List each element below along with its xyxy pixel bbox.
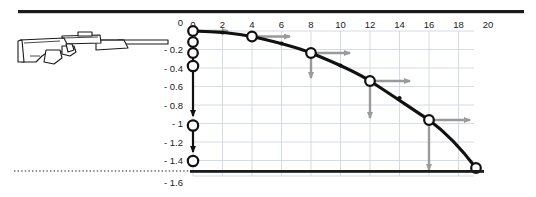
bolt-action-rifle-illustration	[18, 32, 168, 64]
filled-marker-x14	[397, 96, 401, 100]
open-marker-x8	[306, 48, 316, 58]
y-tick-m02: - 0.2	[164, 44, 183, 55]
x-tick-4: 4	[249, 19, 254, 30]
y-tick-m14: - 1.4	[164, 155, 183, 166]
drop-marker-0	[188, 26, 198, 36]
y-tick-m12: - 1.2	[164, 137, 183, 148]
drop-marker-m006	[188, 37, 198, 47]
trajectory-curve	[193, 31, 476, 168]
horizontal-reference-arrows	[193, 31, 470, 120]
y-tick-m06: - 0.6	[164, 81, 183, 92]
x-tick-12: 12	[365, 19, 376, 30]
x-tick-8: 8	[308, 19, 313, 30]
drop-marker-m024	[188, 48, 198, 58]
drop-marker-m096	[188, 120, 198, 130]
top-rule	[18, 10, 524, 13]
drop-marker-m142	[188, 156, 198, 166]
open-marker-x16	[424, 115, 434, 125]
open-marker-x12	[365, 76, 375, 86]
x-tick-14: 14	[394, 19, 405, 30]
y-tick-m04: - 0.4	[164, 63, 183, 74]
baseline-rule	[190, 170, 484, 173]
filled-marker-x10	[338, 63, 342, 67]
x-tick-16: 16	[424, 19, 435, 30]
filled-marker-x6	[279, 41, 283, 45]
x-tick-6: 6	[279, 19, 284, 30]
filled-marker-x2	[220, 30, 224, 34]
x-tick-10: 10	[335, 19, 346, 30]
ballistics-trajectory-figure: 0 2 4 6 8 10 12 14 16 18 20 0 - 0.2 - 0.…	[0, 0, 536, 197]
y-tick-m08: - 0.8	[164, 100, 183, 111]
x-axis-tick-labels: 0 2 4 6 8 10 12 14 16 18 20	[190, 19, 493, 30]
y-tick-0: 0	[178, 17, 183, 28]
open-marker-x4	[247, 32, 257, 42]
drop-marker-m054	[188, 61, 198, 71]
x-tick-20: 20	[483, 19, 494, 30]
x-tick-2: 2	[220, 19, 225, 30]
x-tick-18: 18	[453, 19, 464, 30]
y-tick-m1: - 1	[172, 118, 183, 129]
trajectory-open-markers	[247, 32, 481, 173]
y-tick-m16: - 1.6	[164, 177, 183, 188]
